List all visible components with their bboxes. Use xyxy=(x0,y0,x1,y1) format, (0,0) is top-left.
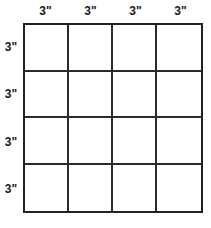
grid-cell xyxy=(113,118,157,165)
grid-cell xyxy=(25,72,69,119)
column-label-3: 3" xyxy=(113,2,158,20)
row-label-1: 3" xyxy=(0,23,22,71)
row-label-4: 3" xyxy=(0,166,22,214)
column-label-2: 3" xyxy=(68,2,113,20)
grid-cell xyxy=(157,72,201,119)
grid-cell xyxy=(69,118,113,165)
grid-cell xyxy=(25,118,69,165)
grid-cell xyxy=(69,25,113,72)
column-label-1: 3" xyxy=(23,2,68,20)
grid-cell xyxy=(113,25,157,72)
column-label-4: 3" xyxy=(158,2,203,20)
grid-cell xyxy=(69,165,113,212)
grid-cell xyxy=(113,72,157,119)
row-label-2: 3" xyxy=(0,71,22,119)
row-label-3: 3" xyxy=(0,118,22,166)
grid-dimension-figure: 3" 3" 3" 3" 3" 3" 3" 3" xyxy=(0,0,211,228)
grid-cell xyxy=(113,165,157,212)
grid-cell xyxy=(25,165,69,212)
grid-cell xyxy=(157,25,201,72)
grid-cell xyxy=(69,72,113,119)
grid-cell xyxy=(25,25,69,72)
column-dimension-labels: 3" 3" 3" 3" xyxy=(23,2,203,20)
grid-cell xyxy=(157,165,201,212)
row-dimension-labels: 3" 3" 3" 3" xyxy=(0,23,22,213)
square-grid xyxy=(23,23,203,213)
grid-cell xyxy=(157,118,201,165)
